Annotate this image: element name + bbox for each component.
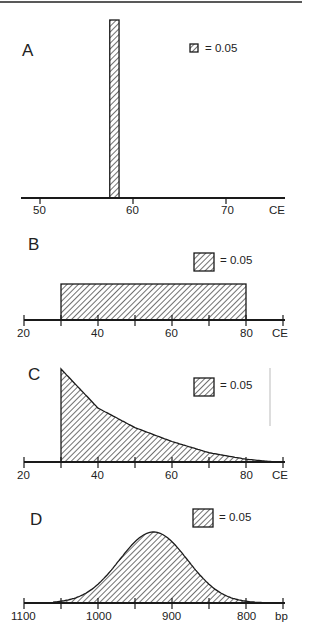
tick-label-d-800: 800 — [237, 610, 256, 622]
figure: A = 0.05 50 60 70 CE B = 0.05 20 40 60 8… — [0, 0, 309, 640]
tick-label-b-20: 20 — [17, 327, 30, 339]
legend-label-b: = 0.05 — [220, 254, 252, 266]
tick-label-b-60: 60 — [165, 327, 178, 339]
area-d — [54, 532, 269, 603]
tick-label-d-900: 900 — [162, 610, 181, 622]
panel-d: D = 0.05 1100 1000 900 800 bp — [11, 509, 288, 622]
legend-swatch-c — [194, 378, 214, 396]
legend-label-a: = 0.05 — [205, 42, 237, 54]
panel-letter-b: B — [28, 235, 39, 254]
tick-label-d-1100: 1100 — [11, 610, 36, 622]
bar-b — [61, 284, 246, 320]
bar-a — [110, 20, 119, 198]
panel-a: A = 0.05 50 60 70 CE — [21, 20, 285, 216]
tick-label-b-80: 80 — [240, 327, 253, 339]
tick-label-a-50: 50 — [33, 204, 46, 216]
panel-c: C = 0.05 20 40 60 80 CE — [17, 365, 288, 481]
legend-swatch-b — [194, 253, 214, 271]
legend-swatch-a — [190, 44, 198, 52]
panel-b: B = 0.05 20 40 60 80 CE — [17, 235, 288, 339]
tick-label-c-40: 40 — [91, 469, 104, 481]
axis-unit-a: CE — [269, 204, 285, 216]
legend-swatch-d — [193, 509, 213, 527]
tick-label-a-70: 70 — [221, 204, 234, 216]
tick-label-a-60: 60 — [126, 204, 139, 216]
axis-unit-c: CE — [272, 469, 288, 481]
panel-letter-d: D — [30, 510, 42, 529]
tick-label-c-20: 20 — [17, 469, 30, 481]
axis-unit-d: bp — [275, 610, 288, 622]
tick-label-c-80: 80 — [240, 469, 253, 481]
legend-label-d: = 0.05 — [219, 511, 251, 523]
panel-letter-a: A — [22, 41, 34, 60]
tick-label-c-60: 60 — [165, 469, 178, 481]
panel-letter-c: C — [28, 365, 40, 384]
axis-unit-b: CE — [272, 327, 288, 339]
tick-label-d-1000: 1000 — [86, 610, 112, 622]
tick-label-b-40: 40 — [91, 327, 104, 339]
legend-label-c: = 0.05 — [220, 379, 252, 391]
